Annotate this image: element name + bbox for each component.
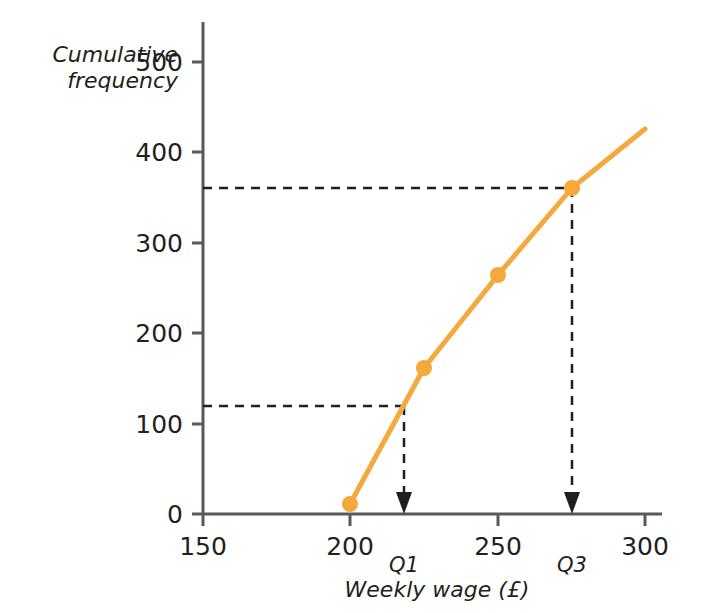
- y-tick-label-400: 400: [135, 138, 183, 167]
- y-tick-label-0: 0: [167, 500, 183, 529]
- q3-arrow-icon: [564, 492, 580, 514]
- q1-label: Q1: [389, 553, 419, 577]
- data-point-markers: [342, 180, 580, 512]
- y-tick-label-100: 100: [135, 410, 183, 439]
- x-tick-label-300: 300: [621, 532, 669, 561]
- cumulative-frequency-chart: 0 100 200 300 400 500 150 200 250 300 Cu…: [0, 0, 710, 613]
- data-point-200: [342, 496, 358, 512]
- data-point-225: [416, 360, 432, 376]
- x-axis-ticks: [203, 514, 645, 526]
- x-tick-label-250: 250: [474, 532, 522, 561]
- q3-label: Q3: [557, 553, 587, 577]
- cumulative-frequency-curve: [350, 129, 645, 504]
- data-point-250: [490, 267, 506, 283]
- y-axis-title-line1: Cumulative: [52, 42, 178, 67]
- chart-canvas: 0 100 200 300 400 500 150 200 250 300 Cu…: [0, 0, 710, 613]
- y-tick-label-200: 200: [135, 319, 183, 348]
- x-axis-title: Weekly wage (£): [345, 577, 530, 602]
- data-point-275: [564, 180, 580, 196]
- q1-arrow-icon: [396, 492, 412, 514]
- x-tick-label-200: 200: [326, 532, 374, 561]
- y-tick-label-300: 300: [135, 229, 183, 258]
- y-axis-ticks: [192, 62, 203, 514]
- x-tick-label-150: 150: [179, 532, 227, 561]
- y-axis-title-line2: frequency: [67, 68, 179, 93]
